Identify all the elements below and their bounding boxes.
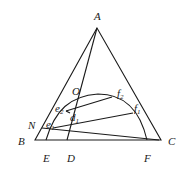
label-e: E — [42, 152, 50, 164]
tie-line-e2-f2 — [66, 97, 112, 111]
tie-line-e1-f1 — [53, 113, 133, 128]
label-n: N — [27, 119, 36, 131]
line-n-c — [42, 128, 159, 140]
label-e1: e1 — [46, 118, 54, 132]
label-f1: f1 — [134, 102, 141, 116]
label-f2: f2 — [117, 87, 124, 101]
label-d: D — [66, 152, 75, 164]
label-e2: e2 — [55, 102, 64, 116]
label-d1: d1 — [70, 111, 79, 125]
line-ad — [67, 28, 97, 140]
label-b: B — [18, 135, 25, 147]
label-a: A — [93, 10, 101, 22]
label-o: O — [72, 85, 80, 97]
label-c: C — [168, 135, 176, 147]
ternary-diagram: A B C O N E D F e2 e1 d1 f2 f1 — [0, 0, 187, 171]
label-f: F — [143, 152, 151, 164]
